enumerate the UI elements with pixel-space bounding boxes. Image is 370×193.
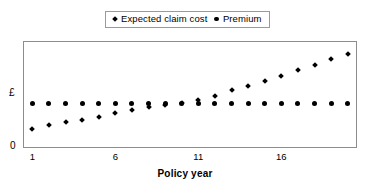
data-point-expected-claim-cost	[46, 122, 52, 128]
data-point-expected-claim-cost	[96, 114, 102, 120]
data-point-premium	[345, 101, 350, 106]
legend-label-premium: Premium	[223, 14, 262, 24]
data-point-expected-claim-cost	[328, 56, 334, 62]
data-point-premium	[30, 101, 35, 106]
x-axis-title: Policy year	[0, 168, 370, 179]
data-point-expected-claim-cost	[29, 126, 35, 132]
data-point-premium	[212, 101, 217, 106]
data-point-premium	[295, 101, 300, 106]
data-point-expected-claim-cost	[245, 83, 251, 89]
data-point-premium	[262, 101, 267, 106]
data-point-premium	[46, 101, 51, 106]
legend-item-expected-claim-cost: Expected claim cost	[113, 14, 207, 24]
data-point-premium	[63, 101, 68, 106]
data-point-expected-claim-cost	[129, 107, 135, 113]
data-point-premium	[312, 101, 317, 106]
x-axis-tick-16: 16	[276, 151, 287, 162]
diamond-marker-icon	[112, 16, 118, 22]
data-point-expected-claim-cost	[278, 73, 284, 79]
data-point-premium	[246, 101, 251, 106]
data-point-premium	[279, 101, 284, 106]
data-point-premium	[329, 101, 334, 106]
x-axis-tick-11: 11	[193, 151, 203, 162]
legend-label-expected-claim-cost: Expected claim cost	[121, 14, 207, 24]
data-point-expected-claim-cost	[229, 87, 235, 93]
x-axis-tick-6: 6	[113, 151, 118, 162]
y-axis-label: £	[9, 87, 15, 98]
data-point-expected-claim-cost	[262, 78, 268, 84]
data-point-expected-claim-cost	[312, 62, 318, 68]
plot-area	[24, 42, 356, 147]
data-point-premium	[113, 101, 118, 106]
data-point-expected-claim-cost	[295, 68, 301, 74]
data-point-expected-claim-cost	[345, 51, 351, 57]
data-point-premium	[196, 101, 201, 106]
x-axis-tick-1: 1	[30, 151, 35, 162]
dot-marker-icon	[214, 17, 219, 22]
data-point-premium	[129, 101, 134, 106]
data-point-expected-claim-cost	[63, 119, 69, 125]
data-point-premium	[179, 101, 184, 106]
plot-frame	[23, 41, 357, 148]
chart-legend: Expected claim cost Premium	[105, 11, 270, 28]
legend-item-premium: Premium	[214, 14, 261, 24]
y-axis-zero-label: 0	[10, 140, 16, 151]
data-point-expected-claim-cost	[112, 111, 118, 117]
data-point-expected-claim-cost	[212, 93, 218, 99]
data-point-premium	[229, 101, 234, 106]
data-point-expected-claim-cost	[79, 117, 85, 123]
data-point-premium	[96, 101, 101, 106]
data-point-premium	[80, 101, 85, 106]
scatter-chart: Expected claim cost Premium £ 0 1 6 11 1…	[0, 0, 370, 193]
